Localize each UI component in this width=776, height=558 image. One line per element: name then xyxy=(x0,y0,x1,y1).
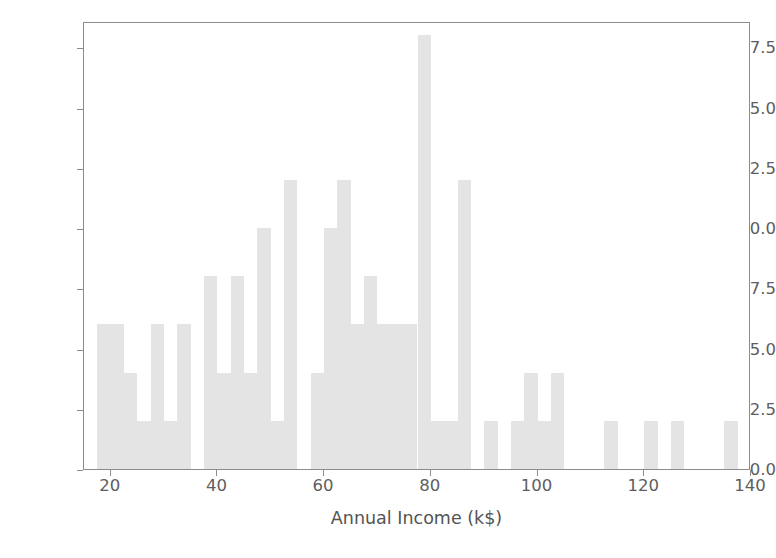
histogram-bar xyxy=(391,324,404,469)
histogram-bar xyxy=(124,373,137,469)
histogram-bar xyxy=(724,421,737,469)
histogram-bar xyxy=(284,180,297,469)
histogram-bar xyxy=(377,324,390,469)
histogram-bar xyxy=(404,324,417,469)
histogram-bar xyxy=(164,421,177,469)
x-tick-label: 100 xyxy=(507,478,567,495)
histogram-bar xyxy=(311,373,324,469)
histogram-bar xyxy=(271,421,284,469)
histogram-bar xyxy=(217,373,230,469)
histogram-bar xyxy=(458,180,471,469)
histogram-bar xyxy=(204,276,217,469)
histogram-bar xyxy=(97,324,110,469)
histogram-bars xyxy=(84,23,749,469)
x-axis-label: Annual Income (k$) xyxy=(83,508,750,528)
histogram-bar xyxy=(644,421,657,469)
x-tick-label: 140 xyxy=(720,478,776,495)
plot-area xyxy=(83,22,750,470)
histogram-bar xyxy=(177,324,190,469)
x-tick-label: 80 xyxy=(400,478,460,495)
histogram-bar xyxy=(351,324,364,469)
histogram-bar xyxy=(337,180,350,469)
histogram-bar xyxy=(484,421,497,469)
y-tick-mark xyxy=(77,470,83,471)
histogram-bar xyxy=(444,421,457,469)
histogram-bar xyxy=(431,421,444,469)
histogram-bar xyxy=(244,373,257,469)
histogram-bar xyxy=(364,276,377,469)
histogram-bar xyxy=(511,421,524,469)
histogram-figure: 0.02.55.07.510.012.515.017.5 20406080100… xyxy=(0,0,776,558)
histogram-bar xyxy=(111,324,124,469)
x-tick-label: 120 xyxy=(613,478,673,495)
histogram-bar xyxy=(257,228,270,469)
histogram-bar xyxy=(324,228,337,469)
histogram-bar xyxy=(551,373,564,469)
histogram-bar xyxy=(671,421,684,469)
histogram-bar xyxy=(418,35,431,469)
x-tick-label: 40 xyxy=(186,478,246,495)
histogram-bar xyxy=(524,373,537,469)
histogram-bar xyxy=(137,421,150,469)
histogram-bar xyxy=(604,421,617,469)
histogram-bar xyxy=(231,276,244,469)
x-tick-label: 20 xyxy=(80,478,140,495)
histogram-bar xyxy=(151,324,164,469)
x-tick-label: 60 xyxy=(293,478,353,495)
histogram-bar xyxy=(538,421,551,469)
